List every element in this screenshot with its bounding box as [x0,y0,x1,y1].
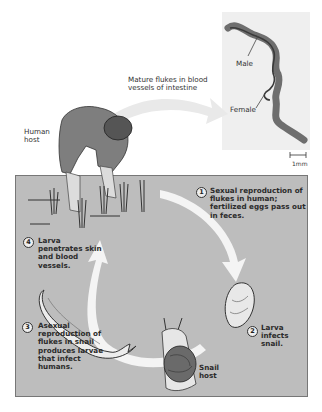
snail-host-label: Snail host [199,364,229,380]
step-1-text: Sexual reproduction of flukes in human; … [210,187,308,220]
male-label: Male [236,60,253,68]
snail-icon [162,318,196,391]
step-3-text: Asexual reproduction of flukes in snail … [38,322,106,371]
step-2-text: Larva infects snail. [261,324,301,349]
mature-flukes-label: Mature flukes in blood vessels of intest… [128,76,228,92]
step-1-badge: 1 [196,187,207,198]
female-label: Female [230,106,256,114]
step-4-text: Larva penetrates skin and blood vessels. [38,237,102,270]
rice-plants-icon [28,180,144,228]
larva-icon [225,283,254,328]
scale-bar-icon [290,152,306,158]
step-3-badge: 3 [22,322,33,333]
worm-pair-icon [228,26,304,140]
scale-bar-label: 1mm [292,160,308,168]
human-host-label: Human host [24,128,58,144]
step-4-badge: 4 [23,237,34,248]
step-2-badge: 2 [247,326,258,337]
